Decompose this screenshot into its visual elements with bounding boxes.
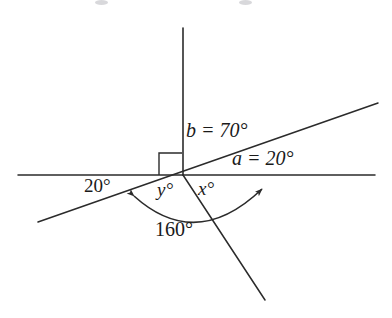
label-left-20-degrees: 20° [84, 176, 111, 195]
angle-diagram-svg [0, 0, 392, 318]
label-b-angle: b = 70° [186, 120, 248, 140]
descending-ray [183, 175, 265, 300]
label-y-angle: y° [157, 180, 173, 199]
diagram-canvas: b = 70° a = 20° 20° y° x° 160° [0, 0, 392, 318]
label-a-angle: a = 20° [232, 148, 294, 168]
right-angle-square [159, 153, 182, 175]
label-x-angle: x° [198, 179, 214, 198]
label-arc-160-degrees: 160° [155, 219, 193, 239]
